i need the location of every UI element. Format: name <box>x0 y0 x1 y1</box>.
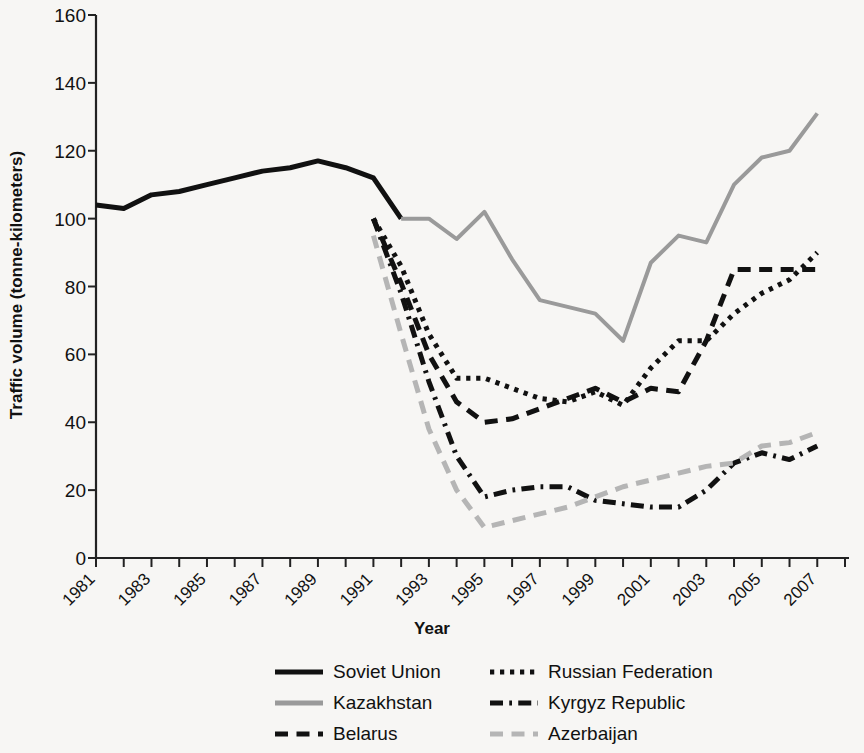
x-tick-label: 1991 <box>336 569 376 609</box>
y-axis-title-text: Traffic volume (tonne-kilometers) <box>7 151 26 419</box>
x-tick-label: 1983 <box>114 569 154 609</box>
x-tick-label: 1987 <box>225 569 265 609</box>
x-tick-label: 1997 <box>502 569 542 609</box>
y-axis-title: Traffic volume (tonne-kilometers) <box>7 151 26 419</box>
y-tick-label: 40 <box>65 412 86 433</box>
x-tick-label: 1985 <box>170 569 210 609</box>
series-line-belarus <box>373 219 817 423</box>
x-tick-label: 2003 <box>669 569 709 609</box>
axes <box>88 15 849 567</box>
legend-label-kyrgyz-republic: Kyrgyz Republic <box>548 692 685 713</box>
x-tick-label: 2005 <box>724 569 764 609</box>
series-line-azerbaijan <box>373 236 817 528</box>
legend-label-kazakhstan: Kazakhstan <box>333 692 432 713</box>
x-tick-label: 1989 <box>281 569 321 609</box>
y-tick-label: 160 <box>54 5 86 26</box>
x-tick-label: 1981 <box>59 569 99 609</box>
y-tick-labels: 020406080100120140160 <box>54 5 86 569</box>
series-line-kyrgyz-republic <box>373 219 817 507</box>
legend-label-russian-federation: Russian Federation <box>548 661 713 682</box>
y-tick-label: 20 <box>65 480 86 501</box>
chart-canvas: Traffic volume (tonne-kilometers) 020406… <box>0 0 864 753</box>
chart-legend: Soviet UnionRussian FederationKazakhstan… <box>275 661 713 744</box>
data-series-layer <box>96 113 817 527</box>
series-line-soviet-union <box>96 161 401 219</box>
y-tick-label: 60 <box>65 344 86 365</box>
x-tick-label: 1993 <box>392 569 432 609</box>
legend-label-azerbaijan: Azerbaijan <box>548 723 638 744</box>
x-tick-labels: 1981198319851987198919911993199519971999… <box>59 569 820 609</box>
legend-label-soviet-union: Soviet Union <box>333 661 441 682</box>
y-tick-label: 120 <box>54 141 86 162</box>
y-tick-label: 140 <box>54 73 86 94</box>
y-tick-label: 100 <box>54 209 86 230</box>
x-tick-label: 2001 <box>613 569 653 609</box>
x-tick-label: 1995 <box>447 569 487 609</box>
x-tick-label: 2007 <box>780 569 820 609</box>
x-tick-label: 1999 <box>558 569 598 609</box>
y-tick-label: 80 <box>65 277 86 298</box>
x-axis-title: Year <box>414 619 450 638</box>
series-line-kazakhstan <box>401 113 817 340</box>
y-tick-label: 0 <box>75 548 86 569</box>
traffic-volume-line-chart: Traffic volume (tonne-kilometers) 020406… <box>0 0 864 753</box>
legend-label-belarus: Belarus <box>333 723 397 744</box>
